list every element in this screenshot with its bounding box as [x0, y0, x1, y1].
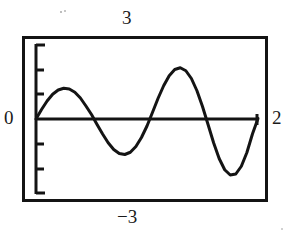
scan-artifact-speck	[281, 228, 283, 230]
scan-artifact-speck	[64, 10, 66, 12]
x-axis-max-label: 2	[272, 108, 282, 127]
x-axis-min-label: 0	[4, 108, 14, 127]
scan-artifact-speck	[60, 11, 62, 13]
y-axis-min-label: −3	[117, 207, 137, 226]
plot-area	[22, 36, 268, 202]
y-axis-max-label: 3	[122, 8, 132, 27]
data-curve	[36, 68, 258, 175]
plot-screenshot: 3 −3 0 2	[0, 0, 294, 237]
